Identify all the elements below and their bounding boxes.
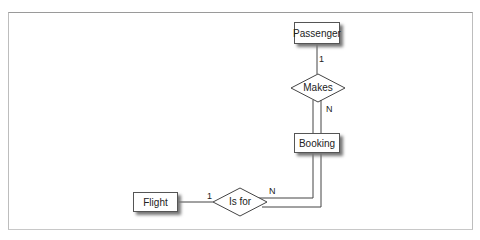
relationship-is-for-label: Is for [213, 196, 267, 207]
entity-label: Flight [143, 197, 167, 208]
entity-label: Booking [299, 138, 335, 149]
cardinality-flight: 1 [207, 191, 212, 201]
entity-booking: Booking [294, 133, 340, 153]
cardinality-booking-is-for: N [269, 186, 276, 196]
entity-label: Passenger [293, 28, 341, 39]
cardinality-passenger: 1 [319, 54, 324, 64]
entity-flight: Flight [133, 192, 178, 212]
cardinality-booking-makes: N [326, 104, 333, 114]
entity-passenger: Passenger [294, 22, 340, 44]
relationship-makes-label: Makes [291, 82, 345, 93]
